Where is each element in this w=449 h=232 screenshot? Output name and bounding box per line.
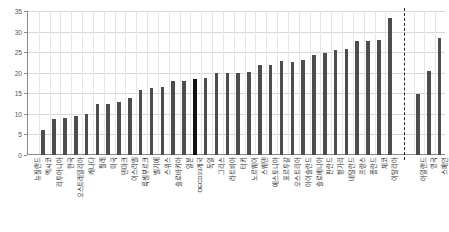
x-axis-category-label: 포르투갈 [284, 157, 291, 229]
bar [438, 38, 442, 155]
bar [427, 71, 431, 155]
x-axis-category-label: 스위스 [165, 157, 172, 229]
bar [128, 98, 132, 155]
bar [96, 104, 100, 155]
x-axis-category-label: 슬로베니아 [317, 157, 324, 229]
bar [161, 87, 165, 155]
x-axis-category-label: 헝가리 [338, 157, 345, 229]
x-axis-category-label: 아이슬란드 [306, 157, 313, 229]
x-axis-labels: 뉴질랜드멕시코리투아니아한국오스트레일리아캐나다칠레미국덴마크이스라엘룩셈부르크… [27, 156, 445, 232]
bar [74, 116, 78, 155]
y-axis-tick-label: 15 [15, 90, 22, 97]
y-axis-tick-label: 25 [15, 49, 22, 56]
x-axis-category-label: 라트비아 [230, 157, 237, 229]
x-axis-category-label: 벨기에 [154, 157, 161, 229]
x-axis-category-label: 일본 [187, 157, 194, 229]
bar [334, 50, 338, 155]
bar [416, 94, 420, 155]
bar [345, 49, 349, 155]
bar [312, 55, 316, 155]
bar [269, 65, 273, 156]
bar [388, 18, 392, 155]
x-axis-category-label: 오스트리아 [295, 157, 302, 229]
x-axis-category-label: OECD33개국 [197, 157, 203, 229]
bar [204, 78, 208, 155]
y-axis: 05101520253035 [0, 11, 24, 155]
x-axis-category-label: 칠레 [100, 157, 107, 229]
x-axis-category-label: 터키 [241, 157, 248, 229]
x-axis-category-label: 미국 [111, 157, 118, 229]
bar [215, 73, 219, 155]
bar [355, 41, 359, 155]
bar [301, 60, 305, 155]
x-axis-category-label: 노르웨이 [252, 157, 259, 229]
group-separator-line [404, 8, 405, 160]
bar [117, 102, 121, 155]
x-axis-category-label: 영국 [431, 157, 438, 229]
x-axis-category-label: 프랑스 [360, 157, 367, 229]
x-axis-category-label: 덴마크 [122, 157, 129, 229]
y-axis-tick-label: 30 [15, 28, 22, 35]
x-axis-category-label: 체코 [382, 157, 389, 229]
bar [182, 81, 186, 155]
x-axis-category-label: 독일 [208, 157, 215, 229]
bar [366, 41, 370, 155]
bar [258, 65, 262, 155]
x-axis-category-label: 네덜란드 [349, 157, 356, 229]
y-axis-tick-label: 0 [18, 152, 22, 159]
y-axis-tick-label: 10 [15, 110, 22, 117]
x-axis-category-label: 핀란드 [327, 157, 334, 229]
x-axis-category-label: 멕시코 [46, 157, 53, 229]
bar [226, 73, 230, 155]
x-axis-category-label: 룩셈부르크 [143, 157, 150, 229]
x-axis-category-label: 뉴질랜드 [35, 157, 42, 229]
bar [63, 118, 67, 155]
bar [291, 62, 295, 155]
bar [377, 40, 381, 155]
y-axis-tick-label: 5 [18, 131, 22, 138]
bar [52, 119, 56, 155]
bar [280, 61, 284, 155]
bar [193, 79, 197, 155]
x-axis-category-label: 오스트레일리아 [78, 157, 85, 229]
bar [150, 88, 154, 155]
bar [139, 90, 143, 155]
x-axis-category-label: 캐나다 [89, 157, 96, 229]
x-axis-category-label: 아일랜드 [421, 157, 428, 229]
x-axis-category-label: 리투아니아 [57, 157, 64, 229]
x-axis-category-label: 스웨덴 [262, 157, 269, 229]
bar [323, 53, 327, 155]
x-axis-category-label: 한국 [68, 157, 75, 229]
bar [41, 130, 45, 156]
bar [106, 104, 110, 155]
bar [236, 73, 240, 155]
x-axis-category-label: 에스토니아 [273, 157, 280, 229]
x-axis-category-label: 스페인 [442, 157, 449, 229]
y-axis-tick-label: 20 [15, 69, 22, 76]
x-axis-category-label: 슬로바키아 [176, 157, 183, 229]
x-axis-category-label: 그리스 [219, 157, 226, 229]
x-axis-category-label: 폴란드 [371, 157, 378, 229]
bar [247, 72, 251, 155]
x-axis-category-label: 이스라엘 [132, 157, 139, 229]
bars-layer [27, 11, 445, 155]
y-axis-tick-label: 35 [15, 8, 22, 15]
bar [171, 81, 175, 155]
bar [85, 114, 89, 155]
x-axis-category-label: 이탈리아 [392, 157, 399, 229]
